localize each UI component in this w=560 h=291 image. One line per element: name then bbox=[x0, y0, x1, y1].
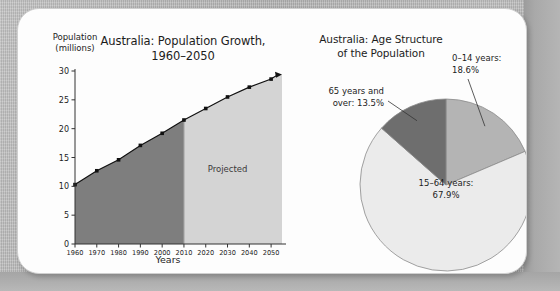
pie-label-65plus-line1: 65 years and bbox=[328, 86, 384, 96]
pie-plot: 0–14 years: 18.6% 15–64 years: 67.9% 65 … bbox=[288, 9, 526, 273]
data-point-1980 bbox=[117, 158, 121, 162]
area-projected bbox=[184, 74, 282, 244]
y-tick-label-15: 15 bbox=[59, 154, 69, 163]
data-point-2040 bbox=[248, 85, 252, 89]
y-tick-label-0: 0 bbox=[64, 240, 69, 249]
population-growth-chart: Population (millions) Australia: Populat… bbox=[18, 9, 298, 273]
y-tick-label-25: 25 bbox=[59, 96, 69, 105]
data-point-2010 bbox=[182, 118, 186, 122]
y-tick-label-30: 30 bbox=[59, 67, 69, 76]
y-tick-label-10: 10 bbox=[59, 182, 69, 191]
x-axis-label: Years bbox=[78, 254, 258, 265]
x-tick-label-2050: 2050 bbox=[263, 249, 280, 257]
figure-panel: Population (millions) Australia: Populat… bbox=[17, 8, 527, 274]
background-shadow-bottom bbox=[0, 272, 560, 291]
y-axis-ticks: 051015202530 bbox=[59, 67, 75, 249]
pie-label-15-64-line1: 15–64 years: bbox=[419, 178, 474, 188]
y-tick-label-5: 5 bbox=[64, 211, 69, 220]
data-point-2050 bbox=[269, 77, 273, 81]
pie-label-0-14-line2: 18.6% bbox=[452, 65, 479, 75]
background-shadow-right bbox=[524, 0, 560, 291]
pie-label-15-64-line2: 67.9% bbox=[432, 190, 459, 200]
age-structure-chart: Australia: Age Structure of the Populati… bbox=[288, 9, 526, 273]
data-point-1970 bbox=[95, 169, 99, 173]
line-chart-plot: 051015202530 196019701980199020002010202… bbox=[18, 9, 298, 273]
pie-label-0-14-line1: 0–14 years: bbox=[452, 53, 501, 63]
data-point-1990 bbox=[139, 144, 143, 148]
pie-label-65plus-line2: over: 13.5% bbox=[333, 98, 384, 108]
data-point-2000 bbox=[160, 131, 164, 135]
data-point-2020 bbox=[204, 107, 208, 111]
projected-annotation: Projected bbox=[208, 164, 248, 174]
area-historical bbox=[75, 120, 184, 244]
data-point-2030 bbox=[226, 95, 230, 99]
y-tick-label-20: 20 bbox=[59, 125, 69, 134]
